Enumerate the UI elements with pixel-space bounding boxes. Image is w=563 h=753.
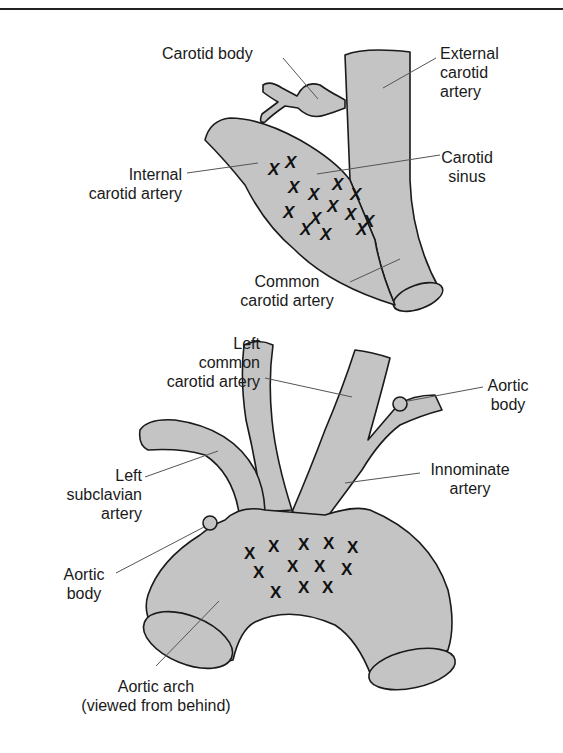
svg-text:X: X bbox=[287, 557, 299, 576]
svg-text:X: X bbox=[253, 563, 265, 582]
label-internal-carotid-artery: Internal carotid artery bbox=[60, 165, 182, 203]
svg-text:X: X bbox=[314, 557, 326, 576]
svg-text:X: X bbox=[282, 203, 296, 222]
svg-text:X: X bbox=[323, 534, 335, 553]
svg-text:X: X bbox=[331, 175, 345, 194]
svg-text:X: X bbox=[287, 178, 301, 197]
svg-text:X: X bbox=[307, 185, 321, 204]
left-subclavian-artery bbox=[140, 420, 265, 520]
svg-text:X: X bbox=[349, 185, 363, 204]
svg-text:X: X bbox=[355, 220, 369, 239]
carotid-body-branch bbox=[261, 83, 345, 122]
svg-text:X: X bbox=[270, 583, 282, 602]
label-aortic-body-right: Aortic body bbox=[478, 376, 538, 414]
svg-text:X: X bbox=[244, 544, 256, 563]
svg-text:X: X bbox=[341, 560, 353, 579]
svg-text:X: X bbox=[347, 538, 359, 557]
label-innominate-artery: Innominate artery bbox=[420, 460, 520, 498]
svg-text:X: X bbox=[326, 197, 340, 216]
aortic-body-left bbox=[203, 516, 217, 530]
label-aortic-body-left: Aortic body bbox=[52, 565, 116, 603]
label-aortic-arch: Aortic arch (viewed from behind) bbox=[60, 677, 252, 715]
label-carotid-body: Carotid body bbox=[162, 44, 253, 63]
svg-text:X: X bbox=[322, 578, 334, 597]
label-common-carotid-artery: Common carotid artery bbox=[222, 272, 352, 310]
svg-text:X: X bbox=[299, 220, 313, 239]
label-carotid-sinus: Carotid sinus bbox=[437, 148, 497, 186]
svg-text:X: X bbox=[319, 225, 333, 244]
svg-text:X: X bbox=[268, 537, 280, 556]
svg-text:X: X bbox=[298, 578, 310, 597]
svg-text:X: X bbox=[267, 160, 281, 179]
svg-text:X: X bbox=[284, 153, 298, 172]
svg-text:X: X bbox=[298, 535, 310, 554]
label-external-carotid-artery: External carotid artery bbox=[440, 44, 499, 101]
label-left-common-carotid-artery: Left common carotid artery bbox=[140, 334, 260, 391]
label-left-subclavian-artery: Left subclavian artery bbox=[50, 466, 142, 523]
aortic-body-right bbox=[393, 397, 407, 411]
